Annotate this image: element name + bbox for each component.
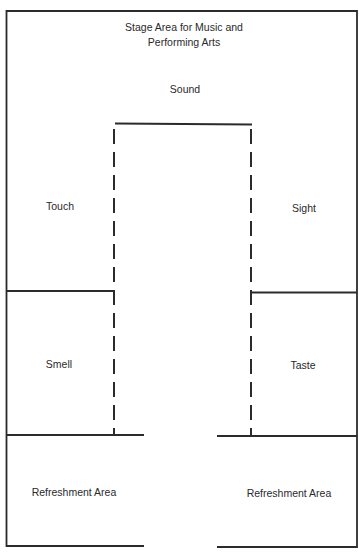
area-label-refreshment-left: Refreshment Area xyxy=(32,486,117,498)
area-label-refreshment-right: Refreshment Area xyxy=(247,487,332,499)
area-label-taste: Taste xyxy=(290,359,315,371)
area-label-sight: Sight xyxy=(292,202,316,214)
area-label-sound: Sound xyxy=(170,83,201,95)
stage-title-line-1: Stage Area for Music and xyxy=(125,21,243,33)
area-label-smell: Smell xyxy=(46,358,72,370)
area-label-touch: Touch xyxy=(46,200,74,212)
floor-plan: Stage Area for Music and Performing Arts… xyxy=(0,0,359,552)
stage-front-wall xyxy=(115,124,252,125)
stage-title-line-2: Performing Arts xyxy=(148,36,220,48)
